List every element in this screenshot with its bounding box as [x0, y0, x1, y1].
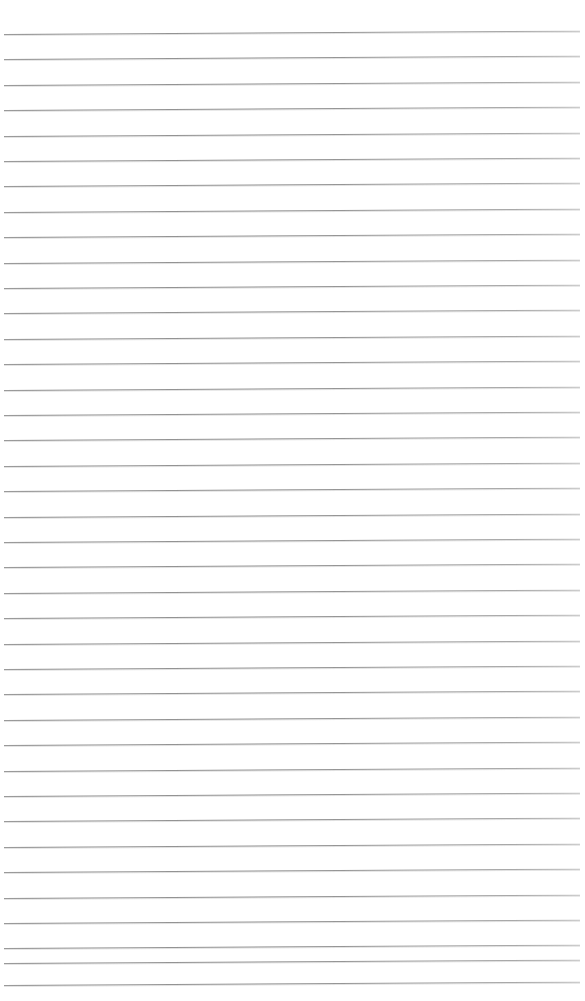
rule-line	[4, 590, 580, 594]
rule-line	[4, 641, 580, 645]
rule-line	[4, 387, 580, 391]
rule-line	[4, 107, 580, 111]
rule-line	[4, 564, 580, 568]
rule-line	[4, 539, 580, 543]
rule-line	[4, 234, 580, 238]
rule-line	[4, 793, 580, 797]
rule-line	[4, 361, 580, 365]
rule-line	[4, 463, 580, 467]
rule-line	[4, 488, 580, 492]
rule-line	[4, 158, 580, 162]
rule-line	[4, 869, 580, 873]
rule-line	[4, 818, 580, 822]
rule-line	[4, 844, 580, 848]
rule-line	[4, 412, 580, 416]
rule-line	[4, 133, 580, 137]
rule-line	[4, 437, 580, 441]
rule-line	[4, 31, 580, 35]
rule-line	[4, 960, 580, 964]
rule-line	[4, 895, 580, 899]
rule-line	[4, 920, 580, 924]
rule-line	[4, 615, 580, 619]
rule-line	[4, 768, 580, 772]
rule-line	[4, 717, 580, 721]
rule-line	[4, 82, 580, 86]
rule-line	[4, 336, 580, 340]
rule-line	[4, 310, 580, 314]
rule-line	[4, 982, 580, 986]
ruled-paper-page	[0, 0, 585, 1001]
rule-line	[4, 742, 580, 746]
rule-lines-container	[0, 0, 585, 1001]
rule-line	[4, 183, 580, 187]
rule-line	[4, 945, 580, 949]
rule-line	[4, 666, 580, 670]
rule-line	[4, 209, 580, 213]
rule-line	[4, 691, 580, 695]
rule-line	[4, 260, 580, 264]
rule-line	[4, 285, 580, 289]
rule-line	[4, 56, 580, 60]
rule-line	[4, 514, 580, 518]
